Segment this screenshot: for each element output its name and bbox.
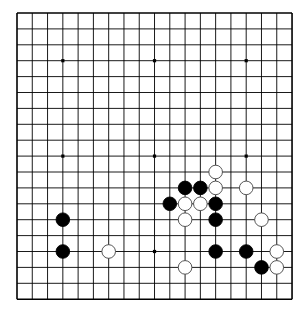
white-stone[interactable] [209,181,223,195]
star-point-icon [245,155,248,158]
white-stone[interactable] [239,181,253,195]
black-stone[interactable] [255,261,269,275]
black-stone[interactable] [209,197,223,211]
white-stone[interactable] [178,213,192,227]
white-stone[interactable] [178,261,192,275]
white-stone[interactable] [194,197,208,211]
white-stone[interactable] [270,261,284,275]
star-point-icon [153,155,156,158]
black-stone[interactable] [194,181,208,195]
star-point-icon [245,59,248,62]
black-stone[interactable] [163,197,177,211]
white-stone[interactable] [102,245,116,259]
black-stone[interactable] [239,245,253,259]
go-board[interactable] [0,0,304,312]
star-point-icon [153,59,156,62]
star-point-icon [61,59,64,62]
white-stone[interactable] [255,213,269,227]
star-point-icon [61,155,64,158]
black-stone[interactable] [56,245,70,259]
black-stone[interactable] [209,245,223,259]
black-stone[interactable] [178,181,192,195]
white-stone[interactable] [178,197,192,211]
star-point-icon [153,250,156,253]
black-stone[interactable] [56,213,70,227]
black-stone[interactable] [209,213,223,227]
white-stone[interactable] [270,245,284,259]
white-stone[interactable] [209,165,223,179]
